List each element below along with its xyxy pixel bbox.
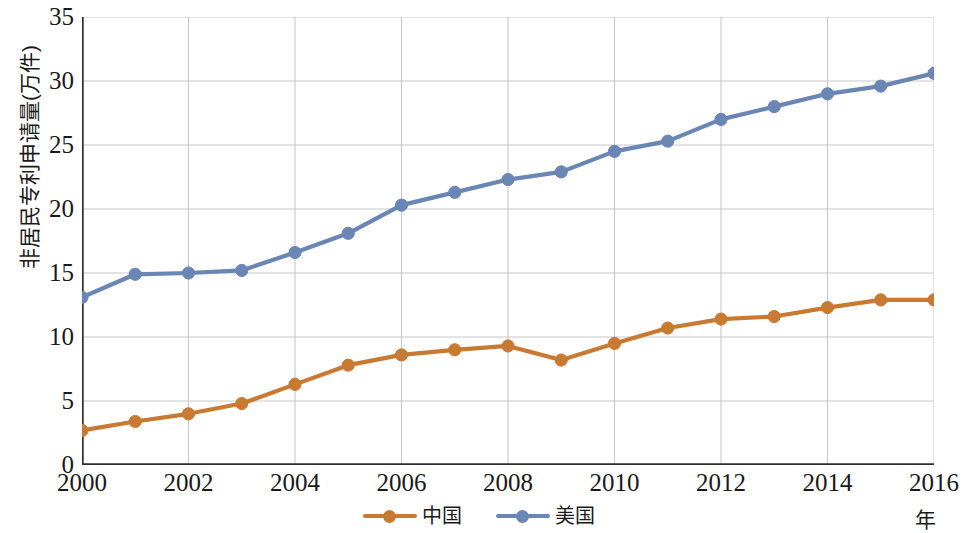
x-tick-label: 2010 [570, 470, 660, 495]
y-tick-label: 20 [34, 196, 74, 221]
y-tick-label: 25 [34, 132, 74, 157]
data-point [555, 166, 567, 178]
data-point [662, 322, 674, 334]
data-point [608, 145, 620, 157]
data-point [129, 268, 141, 280]
data-point [928, 294, 934, 306]
y-tick-label: 15 [34, 260, 74, 285]
legend-marker-icon [363, 509, 417, 523]
data-point [236, 397, 248, 409]
y-tick-label: 30 [34, 68, 74, 93]
data-point [182, 267, 194, 279]
legend-label: 中国 [422, 506, 462, 526]
data-point [875, 294, 887, 306]
data-point [768, 310, 780, 322]
data-point [449, 344, 461, 356]
data-point [821, 301, 833, 313]
data-point [182, 408, 194, 420]
data-point [715, 313, 727, 325]
data-point [289, 246, 301, 258]
data-point [768, 101, 780, 113]
data-point [289, 378, 301, 390]
y-tick-label: 10 [34, 324, 74, 349]
data-point [502, 173, 514, 185]
legend-item-usa[interactable]: 美国 [496, 506, 595, 526]
data-point [449, 186, 461, 198]
legend-item-china[interactable]: 中国 [363, 506, 462, 526]
legend-marker-icon [496, 509, 550, 523]
x-axis-tick-labels: 200020022004200620082010201220142016 [0, 470, 957, 504]
x-tick-label: 2006 [357, 470, 447, 495]
plot-area [82, 17, 934, 465]
plot-svg [82, 17, 934, 465]
x-tick-label: 2012 [676, 470, 766, 495]
data-point [875, 80, 887, 92]
legend: 中国美国 [0, 506, 957, 526]
data-point [502, 340, 514, 352]
y-tick-label: 35 [34, 4, 74, 29]
x-tick-label: 2008 [463, 470, 553, 495]
data-point [342, 359, 354, 371]
data-point [82, 424, 88, 436]
data-point [555, 354, 567, 366]
x-tick-label: 2002 [144, 470, 234, 495]
gridlines-vertical [82, 17, 934, 465]
data-point [928, 67, 934, 79]
y-tick-label: 5 [34, 388, 74, 413]
legend-label: 美国 [555, 506, 595, 526]
data-point [821, 88, 833, 100]
x-tick-label: 2004 [250, 470, 340, 495]
y-axis-tick-labels: 05101520253035 [22, 0, 74, 533]
data-point [342, 227, 354, 239]
data-point [395, 199, 407, 211]
x-tick-label: 2016 [889, 470, 963, 495]
data-point [395, 349, 407, 361]
data-point [715, 113, 727, 125]
data-point [129, 415, 141, 427]
data-point [608, 337, 620, 349]
x-tick-label: 2014 [783, 470, 873, 495]
data-point [236, 264, 248, 276]
data-point [662, 135, 674, 147]
x-tick-label: 2000 [37, 470, 127, 495]
